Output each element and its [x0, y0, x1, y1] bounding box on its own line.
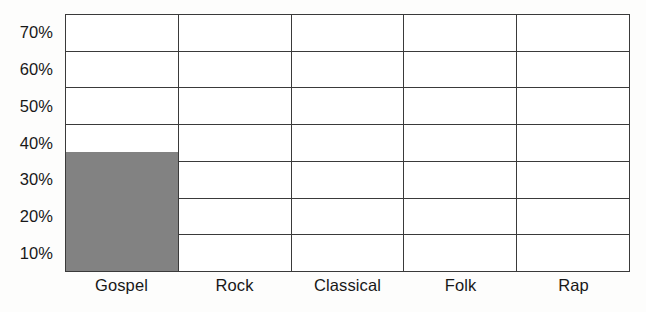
x-axis-tick-label-rock: Rock	[178, 276, 291, 302]
bar-slot-classical	[291, 15, 404, 271]
bar-slot-rap	[516, 15, 629, 271]
x-axis-tick-label-gospel: Gospel	[65, 276, 178, 302]
x-axis-tick-label-classical: Classical	[291, 276, 404, 302]
y-axis: 70% 60% 50% 40% 30% 20% 10%	[0, 14, 62, 272]
y-axis-tick-label: 70%	[0, 14, 62, 51]
y-axis-tick-label: 60%	[0, 51, 62, 88]
bar-chart-figure: 70% 60% 50% 40% 30% 20% 10%	[0, 0, 646, 312]
x-axis: Gospel Rock Classical Folk Rap	[65, 276, 630, 302]
x-axis-tick-label-rap: Rap	[517, 276, 630, 302]
y-axis-tick-label: 40%	[0, 125, 62, 162]
plot-area	[65, 14, 630, 272]
bars-layer	[66, 15, 629, 271]
y-axis-tick-label: 20%	[0, 198, 62, 235]
y-axis-tick-label: 10%	[0, 235, 62, 272]
bar-slot-gospel	[66, 15, 179, 271]
bar-slot-rock	[179, 15, 292, 271]
y-axis-tick-label: 30%	[0, 161, 62, 198]
y-axis-tick-label: 50%	[0, 88, 62, 125]
bar-gospel	[66, 152, 179, 271]
bar-slot-folk	[404, 15, 517, 271]
x-axis-tick-label-folk: Folk	[404, 276, 517, 302]
